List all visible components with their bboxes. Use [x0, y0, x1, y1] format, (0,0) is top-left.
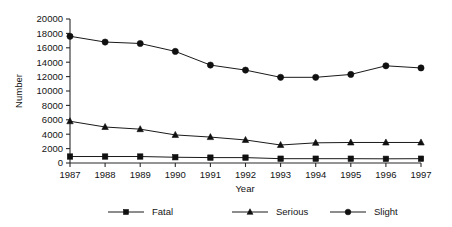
y-tick-label: 0	[58, 157, 63, 168]
data-point-fatal	[313, 156, 318, 161]
data-point-slight	[383, 63, 389, 69]
data-point-fatal	[278, 156, 283, 161]
y-axis-tick-labels: 0200040006000800010000120001400016000180…	[37, 13, 63, 168]
y-axis-ticks	[66, 19, 70, 163]
legend-item-serious[interactable]: Serious	[232, 206, 308, 217]
x-tick-label: 1990	[165, 169, 186, 180]
series-serious	[67, 118, 424, 148]
chart-figure: 0200040006000800010000120001400016000180…	[0, 0, 452, 227]
y-tick-label: 4000	[42, 129, 63, 140]
x-tick-label: 1996	[375, 169, 396, 180]
chart-legend: FatalSeriousSlight	[108, 206, 398, 217]
y-tick-label: 2000	[42, 143, 63, 154]
y-tick-label: 6000	[42, 114, 63, 125]
data-point-fatal	[138, 154, 143, 159]
data-point-slight	[137, 40, 143, 46]
data-point-fatal	[173, 155, 178, 160]
x-tick-label: 1989	[130, 169, 151, 180]
y-axis-group: 0200040006000800010000120001400016000180…	[37, 13, 70, 168]
y-tick-label: 10000	[37, 85, 63, 96]
x-tick-label: 1987	[59, 169, 80, 180]
x-axis-title: Year	[235, 183, 254, 194]
legend-label-slight: Slight	[374, 206, 398, 217]
legend-marker-fatal	[124, 210, 129, 215]
x-axis-ticks	[70, 163, 421, 167]
y-tick-label: 8000	[42, 100, 63, 111]
data-point-slight	[67, 33, 73, 39]
x-tick-label: 1993	[270, 169, 291, 180]
data-point-slight	[172, 48, 178, 54]
x-tick-label: 1992	[235, 169, 256, 180]
data-point-serious	[67, 118, 73, 124]
data-point-slight	[418, 65, 424, 71]
x-tick-label: 1994	[305, 169, 326, 180]
y-tick-label: 18000	[37, 28, 63, 39]
data-point-fatal	[383, 156, 388, 161]
data-point-fatal	[418, 156, 423, 161]
data-point-slight	[242, 67, 248, 73]
data-point-fatal	[348, 156, 353, 161]
x-tick-label: 1995	[340, 169, 361, 180]
data-point-slight	[102, 39, 108, 45]
x-tick-label: 1997	[410, 169, 431, 180]
x-tick-label: 1988	[95, 169, 116, 180]
data-point-slight	[278, 74, 284, 80]
data-point-fatal	[243, 155, 248, 160]
y-tick-label: 16000	[37, 42, 63, 53]
x-tick-label: 1991	[200, 169, 221, 180]
x-axis-tick-labels: 1987198819891990199119921993199419951996…	[59, 169, 431, 180]
y-tick-label: 14000	[37, 57, 63, 68]
y-tick-label: 20000	[37, 13, 63, 24]
x-axis-group: 1987198819891990199119921993199419951996…	[59, 163, 431, 180]
y-axis-title: Number	[13, 74, 24, 108]
legend-item-fatal[interactable]: Fatal	[108, 206, 173, 217]
data-point-slight	[313, 74, 319, 80]
data-point-fatal	[208, 155, 213, 160]
data-point-fatal	[67, 154, 72, 159]
series-slight	[67, 33, 424, 80]
legend-label-serious: Serious	[276, 206, 308, 217]
y-tick-label: 12000	[37, 71, 63, 82]
legend-label-fatal: Fatal	[152, 206, 173, 217]
series-fatal	[67, 154, 423, 162]
data-point-slight	[348, 71, 354, 77]
series-layer	[67, 33, 424, 161]
line-chart-canvas: 0200040006000800010000120001400016000180…	[0, 0, 452, 227]
legend-item-slight[interactable]: Slight	[330, 206, 398, 217]
data-point-fatal	[102, 154, 107, 159]
data-point-slight	[207, 62, 213, 68]
legend-marker-slight	[345, 209, 351, 215]
